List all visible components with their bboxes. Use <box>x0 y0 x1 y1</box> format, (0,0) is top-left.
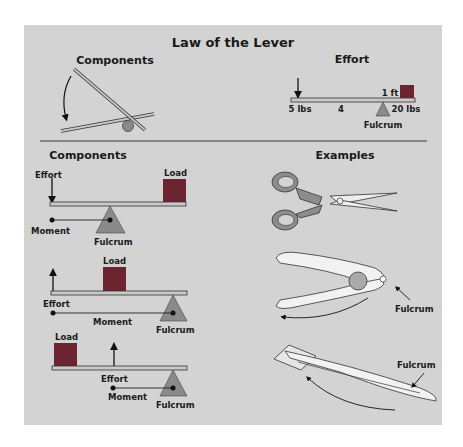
top-components-heading: Components <box>76 54 154 67</box>
class2-lever <box>51 267 188 321</box>
nutcracker-fulcrum-label: Fulcrum <box>395 304 434 314</box>
pivot-icon <box>337 198 343 204</box>
pivot-ball-icon <box>123 121 134 132</box>
tweezers-fulcrum-label: Fulcrum <box>397 360 436 370</box>
class3-moment-label: Moment <box>108 392 147 402</box>
effort-heading: Effort <box>335 53 370 66</box>
fulcrum-label: Fulcrum <box>364 120 403 130</box>
class3-fulcrum-label: Fulcrum <box>156 400 195 410</box>
fulcrum-triangle <box>160 370 187 396</box>
scissors-illustration <box>272 172 397 230</box>
load-block <box>163 179 186 202</box>
load-block <box>103 267 126 291</box>
beam <box>291 98 415 102</box>
fulcrum-pointer-icon <box>413 373 424 386</box>
load-block <box>400 85 414 98</box>
class3-load-label: Load <box>55 332 78 342</box>
beam <box>50 202 186 206</box>
fulcrum-triangle <box>376 102 390 116</box>
rotation-arrow-icon <box>64 76 71 118</box>
fulcrum-triangle <box>160 295 187 321</box>
class2-load-label: Load <box>103 256 126 266</box>
tweezers-illustration <box>274 345 436 410</box>
class1-lever <box>50 178 187 233</box>
fulcrum-pointer-icon <box>397 288 410 300</box>
components-heading: Components <box>49 149 127 162</box>
class3-lever <box>52 343 187 396</box>
load-block <box>54 343 77 366</box>
page-title: Law of the Lever <box>172 35 295 50</box>
class1-fulcrum-label: Fulcrum <box>94 237 133 247</box>
class1-effort-label: Effort <box>35 170 62 180</box>
nutcracker-illustration <box>276 252 410 318</box>
rotating-lever-illustration <box>61 69 154 132</box>
beam <box>52 366 187 370</box>
load-distance-label: 1 ft <box>382 88 399 98</box>
load-weight-label: 20 lbs <box>392 104 421 114</box>
pivot-icon <box>380 276 386 282</box>
beam <box>51 291 187 295</box>
class1-load-label: Load <box>164 168 187 178</box>
lever-diagram: Law of the Lever Components Effort 5 lbs… <box>0 0 463 447</box>
class2-fulcrum-label: Fulcrum <box>156 325 195 335</box>
class1-moment-label: Moment <box>31 226 70 236</box>
examples-heading: Examples <box>315 149 375 162</box>
nut-icon <box>349 272 367 290</box>
class2-effort-label: Effort <box>43 299 70 309</box>
effort-distance-label: 4 <box>338 104 344 114</box>
effort-weight-label: 5 lbs <box>289 104 312 114</box>
class2-moment-label: Moment <box>93 317 132 327</box>
class3-effort-label: Effort <box>101 374 128 384</box>
